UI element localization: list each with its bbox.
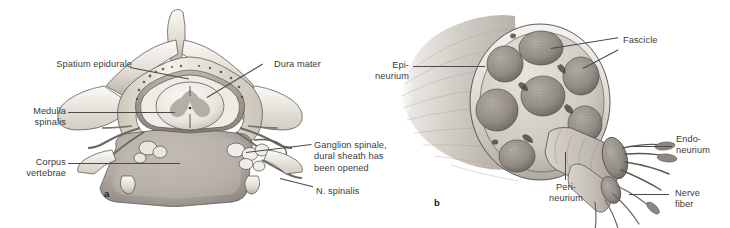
panel-letter-a: a bbox=[104, 188, 109, 199]
leader-perineurium bbox=[565, 152, 566, 180]
label-nerve-fiber: Nerve fiber bbox=[675, 188, 729, 211]
label-epineurium: Epi- neurium bbox=[355, 60, 409, 83]
label-fascicle: Fascicle bbox=[623, 35, 703, 46]
leader-medulla-spinalis bbox=[68, 112, 175, 113]
label-endoneurium: Endo- neurium bbox=[676, 134, 730, 157]
label-spatium-epidurale: Spatium epidurale bbox=[16, 59, 132, 70]
panel-letter-b: b bbox=[434, 197, 440, 208]
leader-endoneurium bbox=[628, 146, 672, 147]
label-corpus-vertebrae: Corpus vertebrae bbox=[6, 157, 66, 180]
leader-epineurium bbox=[413, 66, 485, 67]
panel-a-vertebra: Spatium epidurale Medulla spinalis Corpu… bbox=[0, 0, 365, 228]
label-dura-mater: Dura mater bbox=[274, 59, 354, 70]
leader-nerve-fiber bbox=[629, 194, 669, 195]
label-medulla-spinalis: Medulla spinalis bbox=[10, 106, 66, 129]
leader-corpus-vertebrae bbox=[68, 163, 180, 164]
label-perineurium: Peri- neurium bbox=[537, 182, 595, 205]
anatomy-figure: Spatium epidurale Medulla spinalis Corpu… bbox=[0, 0, 730, 228]
panel-b-peripheral-nerve: Epi- neurium Fascicle Endo- neurium Nerv… bbox=[365, 0, 730, 228]
